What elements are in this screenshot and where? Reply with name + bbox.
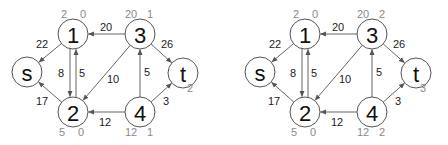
node-label: s (255, 61, 266, 86)
node-annotation: 5 (291, 126, 297, 138)
edge-weight-label: 3 (163, 95, 169, 107)
flow-network-diagram: 2285201026512317s1203201t22504121 228520… (0, 0, 448, 145)
node-4: 4121 (125, 97, 155, 138)
node-annotation: 20 (357, 8, 369, 20)
node-annotation: 0 (78, 126, 84, 138)
node-1: 120 (290, 8, 320, 49)
edge-weight-label: 12 (99, 116, 111, 128)
node-3: 3202 (357, 8, 387, 49)
node-label: s (22, 61, 33, 86)
node-annotation: 0 (310, 126, 316, 138)
edge-weight-label: 5 (144, 66, 150, 78)
edge-weight-label: 20 (332, 21, 344, 33)
edge-weight-label: 22 (269, 38, 281, 50)
node-annotation: 2 (379, 8, 385, 20)
edge-weight-label: 26 (161, 38, 173, 50)
node-annotation: 2 (379, 126, 385, 138)
node-annotation: 5 (59, 126, 65, 138)
node-4: 4122 (357, 97, 387, 138)
edge-weight-label: 10 (107, 73, 119, 85)
node-annotation: 12 (357, 126, 369, 138)
node-s: s (245, 57, 275, 87)
node-label: 1 (67, 23, 79, 48)
node-label: 3 (366, 23, 378, 48)
node-annotation: 1 (147, 126, 153, 138)
node-annotation: 20 (125, 8, 137, 20)
node-1: 120 (58, 8, 88, 49)
node-annotation: 0 (312, 8, 318, 20)
edge-weight-label: 8 (58, 67, 64, 79)
edge-weight-label: 20 (100, 21, 112, 33)
graph-left: 2285201026512317s1203201t22504121 (12, 8, 198, 138)
edge-weight-label: 22 (36, 38, 48, 50)
node-2: 250 (290, 97, 320, 138)
edge-weight-label: 12 (331, 116, 343, 128)
node-label: t (180, 62, 186, 87)
node-label: 2 (67, 101, 79, 126)
node-annotation: 2 (187, 82, 193, 94)
node-label: 1 (299, 23, 311, 48)
edge-weight-label: 8 (290, 67, 296, 79)
node-label: 3 (134, 23, 146, 48)
edge-4-to-t (383, 83, 404, 102)
node-annotation: 1 (147, 8, 153, 20)
edge-weight-label: 3 (395, 95, 401, 107)
node-t: t3 (401, 58, 431, 94)
node-label: 4 (134, 101, 146, 126)
node-annotation: 2 (61, 8, 67, 20)
node-t: t2 (168, 58, 198, 94)
edge-weight-label: 10 (339, 73, 351, 85)
node-label: t (413, 62, 419, 87)
node-annotation: 12 (125, 126, 137, 138)
edge-weight-label: 17 (36, 95, 48, 107)
edge-weight-label: 26 (393, 38, 405, 50)
node-annotation: 2 (293, 8, 299, 20)
node-s: s (12, 57, 42, 87)
node-3: 3201 (125, 8, 155, 49)
node-annotation: 3 (420, 82, 426, 94)
edge-weight-label: 5 (79, 67, 85, 79)
node-annotation: 0 (80, 8, 86, 20)
node-label: 2 (299, 101, 311, 126)
edge-weight-label: 17 (268, 95, 280, 107)
node-2: 250 (58, 97, 88, 138)
node-label: 4 (366, 101, 378, 126)
edge-weight-label: 5 (376, 66, 382, 78)
graph-right: 2285201026512317s1203202t32504122 (245, 8, 431, 138)
edge-weight-label: 5 (311, 67, 317, 79)
